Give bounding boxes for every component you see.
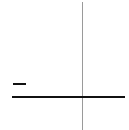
horizontal-axis-line [12,96,125,98]
vertical-divider-line [82,2,83,130]
minus-icon [13,83,26,85]
